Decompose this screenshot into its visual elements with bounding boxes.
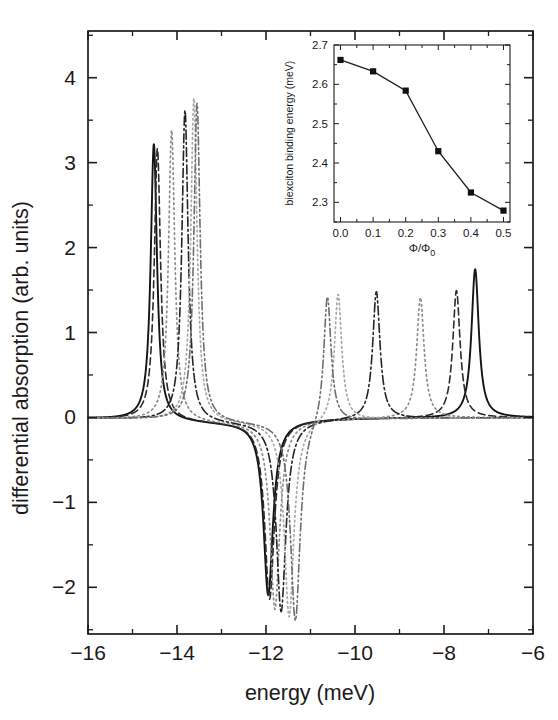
x-tick-label: −6 [521,641,545,664]
inset-x-axis-title-subscript: 0 [430,248,435,258]
x-tick-label: −8 [432,641,456,664]
x-tick-label: −10 [337,641,373,664]
inset-x-axis-title-text: Φ/Φ [409,242,431,254]
inset-x-tick-label: 0.5 [495,227,511,239]
inset-y-tick-label: 2.4 [312,157,329,169]
inset-x-tick-label: 0.4 [463,227,480,239]
inset-data-point [468,189,474,195]
differential-absorption-chart: −16−14−12−10−8−6 −2−101234 energy (meV) … [0,0,558,720]
inset-y-tick-label: 2.5 [312,118,328,130]
figure-container: −16−14−12−10−8−6 −2−101234 energy (meV) … [0,0,558,720]
inset-y-axis-title: biexciton binding energy (meV) [283,61,295,206]
x-tick-label: −12 [248,641,284,664]
inset-data-point [435,148,441,154]
inset-x-tick-label: 0.2 [398,227,414,239]
y-tick-label: 4 [64,66,76,89]
inset-data-point [500,207,506,213]
x-tick-label: −16 [70,641,106,664]
inset-data-point [370,68,376,74]
y-tick-label: 3 [64,151,76,174]
inset-y-tick-label: 2.7 [312,39,328,51]
x-tick-label: −14 [159,641,195,664]
y-tick-label: 1 [64,321,76,344]
inset-background [334,45,510,222]
inset-x-tick-label: 0.3 [430,227,446,239]
y-axis-title: differential absorption (arb. units) [9,201,33,515]
inset-y-tick-label: 2.6 [312,78,328,90]
inset-x-tick-label: 0.1 [365,227,381,239]
x-axis-title: energy (meV) [245,681,375,705]
inset-x-tick-label: 0.0 [333,227,349,239]
y-tick-label: 2 [64,236,76,259]
inset-y-tick-label: 2.3 [312,196,328,208]
y-tick-label: −1 [52,490,76,513]
y-tick-label: −2 [52,575,76,598]
inset-data-point [337,57,343,63]
y-tick-label: 0 [64,405,76,428]
inset-data-point [403,88,409,94]
